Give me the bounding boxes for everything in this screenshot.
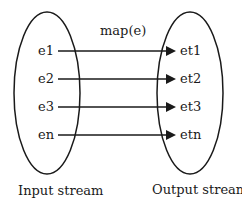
- input-stream-ellipse: [14, 12, 80, 174]
- input-item-3: e3: [38, 100, 54, 114]
- arrowhead-3-icon: [166, 102, 176, 112]
- output-stream-label: Output stream: [152, 183, 242, 197]
- function-label: map(e): [100, 24, 146, 38]
- output-item-2: et2: [180, 72, 201, 86]
- output-item-3: et3: [180, 100, 201, 114]
- input-item-1: e1: [38, 44, 54, 58]
- output-item-n: etn: [180, 128, 201, 142]
- output-stream-ellipse: [157, 12, 223, 174]
- input-item-n: en: [38, 128, 54, 142]
- arrowhead-n-icon: [166, 130, 176, 140]
- arrowhead-1-icon: [166, 46, 176, 56]
- input-item-2: e2: [38, 72, 54, 86]
- arrowhead-2-icon: [166, 74, 176, 84]
- output-item-1: et1: [180, 44, 201, 58]
- input-stream-label: Input stream: [18, 184, 103, 198]
